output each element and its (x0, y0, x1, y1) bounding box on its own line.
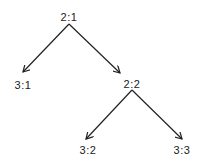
node-3-2: 3:2 (80, 144, 97, 156)
edge-2-1-to-2-2 (69, 24, 120, 73)
edge-2-1-to-3-1 (23, 24, 69, 72)
tree-diagram: 2:1 3:1 2:2 3:2 3:3 (0, 0, 205, 165)
node-3-3: 3:3 (174, 144, 191, 156)
edge-2-2-to-3-3 (132, 90, 182, 139)
node-2-1: 2:1 (61, 11, 78, 23)
node-2-2: 2:2 (124, 78, 141, 90)
node-3-1: 3:1 (15, 79, 32, 91)
edge-2-2-to-3-2 (86, 90, 132, 139)
